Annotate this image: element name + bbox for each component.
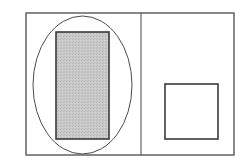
diagram-canvas	[0, 0, 241, 161]
shaded-rectangle	[56, 32, 109, 139]
left-panel	[33, 16, 132, 154]
empty-square	[165, 84, 218, 139]
right-panel	[165, 84, 218, 139]
